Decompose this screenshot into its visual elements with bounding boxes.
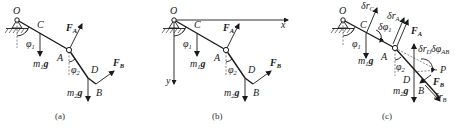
label-fa: FA — [65, 22, 78, 34]
label-a: A — [213, 52, 221, 63]
caption-a: (a) — [55, 111, 65, 121]
pin-a-icon — [223, 47, 228, 52]
label-c: C — [360, 19, 367, 30]
label-c: C — [194, 19, 201, 30]
force-fb-arrow — [253, 71, 271, 84]
label-fb: FB — [112, 57, 125, 69]
label-dphi1: δφ1 — [378, 21, 391, 33]
label-fa: FA — [222, 22, 235, 34]
caption-b: (b) — [212, 111, 223, 121]
label-d: D — [247, 64, 256, 75]
pin-a-icon — [66, 47, 71, 52]
label-m1g: m1g — [33, 58, 48, 70]
label-x-axis: x — [280, 19, 286, 30]
label-o: O — [13, 5, 20, 16]
label-phi2: φ2 — [396, 61, 406, 73]
label-p: P — [439, 64, 446, 75]
label-b: B — [253, 87, 259, 98]
label-drd: δrD — [418, 43, 432, 55]
label-fa: FA — [410, 25, 423, 37]
label-fb: FB — [269, 57, 282, 69]
panel-a: O C A D B FA FB m1g m2g φ1 φ2 (a) — [5, 5, 125, 121]
label-y-axis: y — [165, 75, 171, 86]
label-m2g: m2g — [393, 85, 408, 97]
force-fa-arrow — [397, 20, 408, 46]
virtual-rotation-dphiab-arrow — [421, 59, 432, 72]
label-drc: δrC — [361, 0, 375, 12]
label-fb: FB — [432, 76, 445, 88]
label-a: A — [56, 52, 64, 63]
caption-c: (c) — [382, 111, 392, 121]
label-b: B — [96, 87, 102, 98]
label-phi1: φ1 — [26, 38, 35, 50]
label-a: A — [380, 51, 388, 62]
label-o: O — [170, 5, 177, 16]
label-dphiab: δφAB — [431, 43, 449, 55]
label-d: D — [90, 64, 99, 75]
label-m2g: m2g — [67, 87, 82, 99]
label-dra: δrA — [387, 10, 400, 22]
label-b: B — [418, 85, 424, 96]
force-fb-arrow — [96, 71, 114, 84]
panel-c: O C A D B P δrC δrA FA δφ1 δrD δφAB FB δ… — [331, 0, 449, 121]
label-m1g: m1g — [190, 58, 205, 70]
label-phi1: φ1 — [352, 38, 361, 50]
label-o: O — [339, 5, 346, 16]
panel-b: O C A D B x y FA FB m1g m2g φ1 φ2 (b) — [162, 5, 288, 121]
label-m2g: m2g — [224, 87, 239, 99]
label-drb: δrB — [434, 91, 447, 103]
label-c: C — [37, 19, 44, 30]
figure-canvas: O C A D B FA FB m1g m2g φ1 φ2 (a) — [0, 0, 461, 132]
label-d: D — [402, 74, 411, 85]
pin-a-icon — [392, 45, 397, 50]
label-phi1: φ1 — [183, 38, 192, 50]
